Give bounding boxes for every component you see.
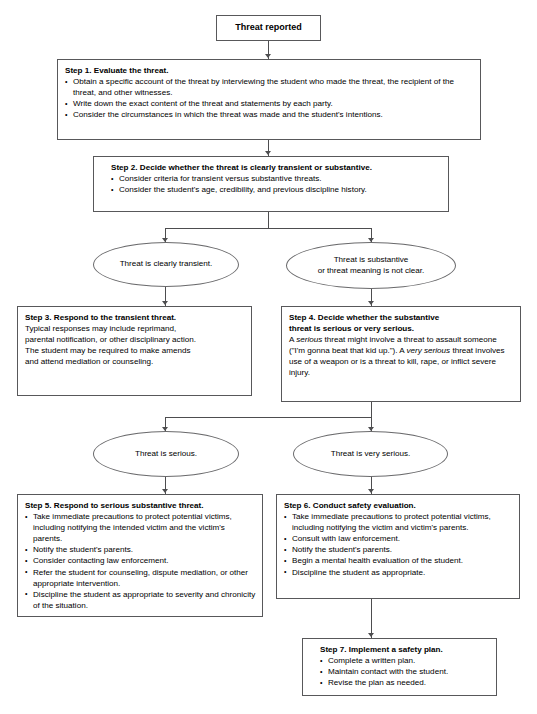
node-step-3-line-2: parental notification, or other discipli… — [25, 334, 245, 345]
node-step-5-bullets: Take immediate precautions to protect po… — [25, 511, 256, 611]
node-step-4-title-line-1: Step 4. Decide whether the substantive — [289, 312, 514, 323]
connector-step2-down — [268, 212, 269, 228]
list-item: Revise the plan as needed. — [320, 677, 490, 688]
node-step-6-title: Step 6. Conduct safety evaluation. — [284, 500, 513, 511]
list-item: Consider criteria for transient versus s… — [111, 173, 442, 184]
node-threat-clearly-transient: Threat is clearly transient. — [93, 242, 239, 287]
label-line-2: or threat meaning is not clear. — [318, 266, 425, 275]
connector-step2-split — [165, 228, 372, 229]
node-step-3-line-4: and attend mediation or counseling. — [25, 356, 245, 367]
node-threat-substantive: Threat is substantive or threat meaning … — [286, 242, 456, 289]
node-step-3-title: Step 3. Respond to the transient threat. — [25, 312, 245, 323]
arrowhead-substantive-to-step4 — [368, 301, 374, 305]
node-threat-reported-label: Threat reported — [235, 22, 302, 33]
node-step-1: Step 1. Evaluate the threat. Obtain a sp… — [57, 59, 481, 140]
node-threat-clearly-transient-label: Threat is clearly transient. — [120, 259, 213, 270]
node-step-4-body: A serious threat might involve a threat … — [289, 334, 514, 378]
list-item: Complete a written plan. — [320, 655, 490, 666]
node-step-6: Step 6. Conduct safety evaluation. Take … — [276, 494, 520, 599]
arrowhead-very-serious-to-step6 — [368, 489, 374, 493]
list-item: Obtain a specific account of the threat … — [65, 76, 474, 98]
list-item: Consider the circumstances in which the … — [65, 109, 474, 120]
node-step-7-bullets: Complete a written plan. Maintain contac… — [320, 655, 490, 688]
node-threat-reported: Threat reported — [216, 15, 321, 41]
node-step-7: Step 7. Implement a safety plan. Complet… — [302, 638, 497, 696]
node-step-3: Step 3. Respond to the transient threat.… — [17, 306, 252, 396]
list-item: Notify the student's parents. — [284, 544, 513, 555]
node-threat-serious-label: Threat is serious. — [135, 449, 197, 460]
connector-step4-split — [165, 417, 372, 418]
node-step-2: Step 2. Decide whether the threat is cle… — [93, 156, 449, 212]
label-line-1: Threat is substantive — [334, 255, 409, 264]
node-threat-very-serious: Threat is very serious. — [293, 431, 448, 477]
list-item: Consider contacting law enforcement. — [25, 555, 256, 566]
list-item: Maintain contact with the student. — [320, 666, 490, 677]
arrowhead-serious-to-step5 — [162, 489, 168, 493]
list-item: Write down the exact content of the thre… — [65, 98, 474, 109]
node-step-4-title-line-2: threat is serious or very serious. — [289, 323, 514, 334]
list-item: Consult with law enforcement. — [284, 533, 513, 544]
node-threat-substantive-label: Threat is substantive or threat meaning … — [318, 255, 425, 276]
flowchart-canvas: Threat reported Step 1. Evaluate the thr… — [0, 0, 537, 714]
node-step-1-title: Step 1. Evaluate the threat. — [65, 65, 474, 76]
node-step-5-title: Step 5. Respond to serious substantive t… — [25, 500, 256, 511]
connector-step4-down — [371, 402, 372, 417]
node-step-3-line-3: The student may be required to make amen… — [25, 345, 245, 356]
list-item: Take immediate precautions to protect po… — [25, 511, 256, 544]
node-step-3-line-1: Typical responses may include reprimand, — [25, 323, 245, 334]
arrowhead-step6-to-step7 — [368, 633, 374, 637]
list-item: Take immediate precautions to protect po… — [284, 511, 513, 533]
list-item: Discipline the student as appropriate. — [284, 567, 513, 578]
node-threat-serious: Threat is serious. — [93, 431, 239, 477]
list-item: Begin a mental health evaluation of the … — [284, 555, 513, 566]
list-item: Refer the student for counseling, disput… — [25, 567, 256, 589]
node-step-2-title: Step 2. Decide whether the threat is cle… — [111, 162, 442, 173]
node-step-7-title: Step 7. Implement a safety plan. — [320, 644, 490, 655]
list-item: Consider the student's age, credibility,… — [111, 184, 442, 195]
arrowhead-transient-to-step3 — [162, 301, 168, 305]
node-threat-very-serious-label: Threat is very serious. — [331, 449, 411, 460]
node-step-4: Step 4. Decide whether the substantive t… — [281, 306, 521, 402]
node-step-1-bullets: Obtain a specific account of the threat … — [65, 76, 474, 120]
arrowhead-step1-to-step2 — [265, 151, 271, 155]
list-item: Notify the student's parents. — [25, 544, 256, 555]
node-step-5: Step 5. Respond to serious substantive t… — [17, 494, 263, 617]
node-step-2-bullets: Consider criteria for transient versus s… — [111, 173, 442, 195]
arrowhead-start-to-step1 — [265, 54, 271, 58]
list-item: Discipline the student as appropriate to… — [25, 589, 256, 611]
node-step-6-bullets: Take immediate precautions to protect po… — [284, 511, 513, 578]
